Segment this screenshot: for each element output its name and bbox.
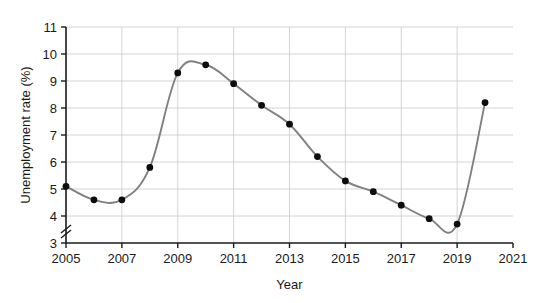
y-tick-label: 7 <box>50 128 57 143</box>
data-point-marker: 2013: 7.4 <box>286 121 293 128</box>
y-tick-label: 11 <box>44 20 58 35</box>
data-point-marker: 2016: 4.9 <box>370 188 377 195</box>
x-tick-label: 2005 <box>52 251 81 266</box>
y-tick-label: 8 <box>50 101 57 116</box>
data-point-marker: 2007: 4.6 <box>118 196 125 203</box>
y-tick-label: 5 <box>50 182 57 197</box>
data-point-marker: 2011: 8.9 <box>230 80 237 87</box>
data-point-marker: 2010: 9.6 <box>202 61 209 68</box>
data-point-marker: 2014: 6.2 <box>314 153 321 160</box>
x-tick-label: 2007 <box>107 251 136 266</box>
data-point-marker: 2008: 5.8 <box>146 164 153 171</box>
data-point-marker: 2006: 4.6 <box>91 196 98 203</box>
x-tick-label: 2011 <box>220 251 248 266</box>
x-tick-label: 2019 <box>443 251 472 266</box>
x-tick-label: 2013 <box>275 251 304 266</box>
x-tick-label: 2021 <box>499 251 528 266</box>
chart-canvas: 34567891011 2005200720092011201320152017… <box>0 0 543 303</box>
y-tick-label: 9 <box>50 74 57 89</box>
x-tick-label: 2009 <box>163 251 192 266</box>
data-point-marker: 2009: 9.3 <box>174 70 181 77</box>
data-point-marker: 2019: 3.7 <box>454 221 461 228</box>
data-point-marker: 2012: 8.1 <box>258 102 265 109</box>
data-point-marker: 2020: 8.2 <box>482 99 489 106</box>
data-point-marker: 2005: 5.1 <box>63 183 70 190</box>
y-axis-title: Unemployment rate (%) <box>18 66 33 203</box>
y-tick-label: 3 <box>50 236 57 251</box>
data-point-marker: 2017: 4.4 <box>398 202 405 209</box>
x-tick-label: 2017 <box>387 251 416 266</box>
y-tick-label: 4 <box>50 209 57 224</box>
data-point-marker: 2018: 3.9 <box>426 215 433 222</box>
x-axis-title: Year <box>276 277 303 292</box>
y-tick-label: 6 <box>50 155 57 170</box>
x-tick-label: 2015 <box>331 251 360 266</box>
y-tick-label: 10 <box>43 47 57 62</box>
data-point-marker: 2015: 5.3 <box>342 178 349 185</box>
unemployment-rate-line-chart: 34567891011 2005200720092011201320152017… <box>0 0 543 303</box>
